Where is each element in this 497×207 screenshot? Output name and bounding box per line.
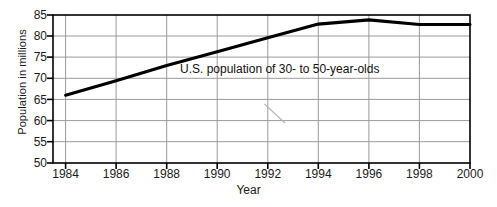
y-tick-label: 65 bbox=[21, 94, 47, 106]
x-axis-label: Year bbox=[0, 183, 497, 197]
y-tick-label: 55 bbox=[21, 136, 47, 148]
y-tick-label: 75 bbox=[21, 51, 47, 63]
x-tick-label: 2000 bbox=[446, 168, 494, 181]
chart-figure: Population in millions 85 80 75 70 65 60… bbox=[0, 0, 497, 207]
y-tick-label: 80 bbox=[21, 30, 47, 42]
x-tick-label: 1988 bbox=[143, 168, 191, 181]
x-tick-label: 1994 bbox=[294, 168, 342, 181]
y-axis-ticks bbox=[47, 15, 53, 163]
y-tick-label: 60 bbox=[21, 115, 47, 127]
y-tick-label: 70 bbox=[21, 72, 47, 84]
y-tick-label: 85 bbox=[21, 9, 47, 21]
x-tick-label: 1984 bbox=[42, 168, 90, 181]
x-tick-label: 1992 bbox=[244, 168, 292, 181]
x-tick-label: 1996 bbox=[345, 168, 393, 181]
x-tick-label: 1998 bbox=[395, 168, 443, 181]
x-axis-tick-labels: 1984 1986 1988 1990 1992 1994 1996 1998 … bbox=[0, 168, 497, 184]
chart-annotation: U.S. population of 30- to 50-year-olds bbox=[180, 62, 379, 76]
x-tick-label: 1986 bbox=[92, 168, 140, 181]
plot-background bbox=[53, 15, 470, 163]
x-tick-label: 1990 bbox=[193, 168, 241, 181]
